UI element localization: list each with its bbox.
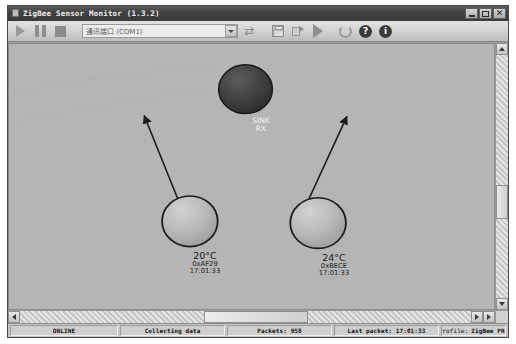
node-bece [290, 198, 346, 249]
port-select[interactable]: 通讯端口 (COM1) [82, 24, 238, 38]
application-window: ZigBee Sensor Monitor (1.3.2) ✕ 通讯端口 (CO… [7, 5, 509, 338]
node-af29 [162, 196, 218, 247]
scroll-up-button[interactable] [496, 43, 508, 55]
client-area: SINK RX 20°C 0xAF29 17:01:33 24°C 0xBECE… [8, 42, 508, 323]
minimize-button[interactable] [465, 8, 478, 19]
chevron-left-icon [12, 314, 16, 320]
chevron-right-icon [475, 314, 479, 320]
status-packets: Packets: 958 [227, 325, 332, 336]
background-artifacts [9, 68, 244, 124]
export-icon [292, 25, 304, 37]
title-bar: ZigBee Sensor Monitor (1.3.2) ✕ [8, 6, 508, 21]
vertical-scrollbar[interactable] [495, 43, 508, 310]
chevron-right-icon [487, 314, 491, 320]
vertical-scroll-thumb[interactable] [496, 185, 508, 219]
port-select-value: 通讯端口 (COM1) [83, 26, 225, 36]
info-icon: i [379, 25, 392, 38]
run-button[interactable] [309, 23, 326, 40]
maximize-button[interactable] [479, 8, 492, 19]
floppy-disk-icon [272, 25, 284, 37]
network-graph-canvas[interactable]: SINK RX 20°C 0xAF29 17:01:33 24°C 0xBECE… [8, 43, 495, 310]
maximize-icon [482, 11, 489, 17]
chevron-down-icon [499, 302, 505, 306]
chevron-up-icon [499, 47, 505, 51]
scroll-right-button[interactable] [471, 311, 483, 323]
scroll-down-button[interactable] [496, 298, 508, 310]
about-button[interactable]: i [377, 23, 394, 40]
network-graph-svg [9, 44, 494, 309]
window-controls: ✕ [465, 8, 506, 19]
reset-button[interactable] [337, 23, 354, 40]
horizontal-scrollbar[interactable] [8, 310, 495, 323]
horizontal-scroll-thumb[interactable] [204, 311, 308, 323]
pause-icon [35, 25, 46, 37]
scrollbar-corner [495, 310, 508, 323]
minimize-icon [469, 15, 475, 17]
status-bar: ONLINE Collecting data Packets: 958 Last… [8, 323, 508, 337]
help-icon: ? [359, 25, 372, 38]
status-profile: Profile: ZigBee PRO [441, 325, 506, 336]
refresh-icon: ⇄ [244, 25, 254, 37]
node-sink [219, 65, 273, 114]
scroll-left-button[interactable] [8, 311, 20, 323]
play-icon [16, 25, 25, 37]
status-last-packet: Last packet: 17:01:33 [334, 325, 439, 336]
start-button[interactable] [12, 23, 29, 40]
reset-arrow-icon [339, 25, 352, 38]
status-profile-label: Profile: [441, 327, 468, 334]
status-connection: ONLINE [10, 325, 118, 336]
status-profile-value: ZigBee PRO [471, 327, 506, 334]
close-button[interactable]: ✕ [493, 8, 506, 19]
run-play-icon [313, 24, 323, 38]
stop-button[interactable] [52, 23, 69, 40]
close-icon: ✕ [496, 9, 504, 18]
scroll-right-button-extra[interactable] [483, 311, 495, 323]
window-title: ZigBee Sensor Monitor (1.3.2) [23, 9, 465, 18]
help-button[interactable]: ? [357, 23, 374, 40]
status-activity: Collecting data [120, 325, 225, 336]
v-scroll-track[interactable] [496, 55, 508, 298]
stop-icon [55, 26, 66, 37]
toolbar: 通讯端口 (COM1) ⇄ ? i [8, 21, 508, 42]
refresh-ports-button[interactable]: ⇄ [241, 23, 258, 40]
app-icon [11, 9, 20, 18]
chevron-down-icon[interactable] [225, 25, 237, 37]
export-button[interactable] [289, 23, 306, 40]
graph-nodes [162, 65, 346, 249]
save-button[interactable] [269, 23, 286, 40]
pause-button[interactable] [32, 23, 49, 40]
